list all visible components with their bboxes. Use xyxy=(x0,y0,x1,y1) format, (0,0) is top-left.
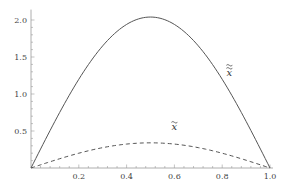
solid-curve xyxy=(31,17,270,168)
y-tick-label: 2.0 xyxy=(14,16,27,25)
x-tick-label: 0.2 xyxy=(72,172,85,181)
label-x-tilde: x xyxy=(171,121,177,132)
x-tick-label: 0.4 xyxy=(120,172,133,181)
y-tick-label: 0.5 xyxy=(14,127,27,136)
x-tick-label: 0.6 xyxy=(168,172,181,181)
x-tick-label: 1.0 xyxy=(264,172,277,181)
dashed-curve xyxy=(31,143,270,168)
x-tick-label: 0.8 xyxy=(216,172,229,181)
axes xyxy=(31,10,273,168)
y-tick-label: 1.0 xyxy=(14,90,27,99)
curve-labels: xx xyxy=(171,65,232,132)
label-x-double-tilde: x xyxy=(226,65,232,78)
series xyxy=(31,17,270,168)
y-tick-label: 1.5 xyxy=(14,53,27,62)
tick-labels: 0.20.40.60.81.00.51.01.52.0 xyxy=(14,16,276,181)
chart: 0.20.40.60.81.00.51.01.52.0 xx xyxy=(0,0,289,187)
ticks xyxy=(31,20,270,168)
